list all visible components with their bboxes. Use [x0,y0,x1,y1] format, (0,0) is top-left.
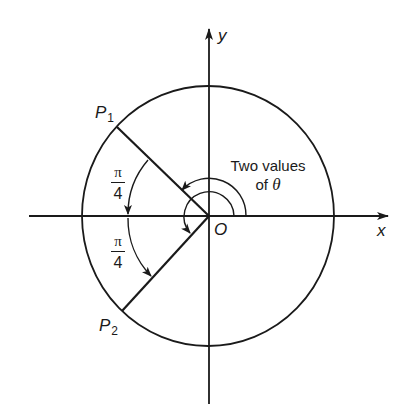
fraction-denominator: 4 [111,186,125,202]
fraction-numerator: π [111,165,125,180]
annotation-line-2: of θ [222,175,314,194]
two-values-annotation: Two values of θ [222,156,314,194]
fraction-bar [111,182,125,183]
diagram-graphics [0,0,409,420]
y-axis-label: y [218,27,227,44]
fraction-numerator: π [111,234,125,249]
angle-label-lower-pi-over-4: π 4 [111,234,125,271]
polar-diagram: y x O P1 P2 π 4 π 4 Two values of θ [0,0,409,420]
point-label-p2: P2 [99,317,118,337]
annotation-of: of [255,176,272,193]
origin-label: O [214,221,227,238]
x-axis-label: x [377,222,386,239]
p1-base: P [95,103,106,122]
p2-base: P [99,316,110,335]
p2-subscript: 2 [111,324,118,338]
point-label-p1: P1 [95,104,114,124]
angle-label-upper-pi-over-4: π 4 [111,165,125,202]
p1-subscript: 1 [107,111,114,125]
annotation-line-1: Two values [222,156,314,175]
fraction-denominator: 4 [111,255,125,271]
radius-p2 [122,216,209,311]
fraction-bar [111,251,125,252]
theta-symbol: θ [272,175,280,194]
radius-p1 [117,127,209,216]
angle-arc-upper-pi-over-4 [128,160,148,214]
angle-arc-lower-pi-over-4 [128,218,151,276]
